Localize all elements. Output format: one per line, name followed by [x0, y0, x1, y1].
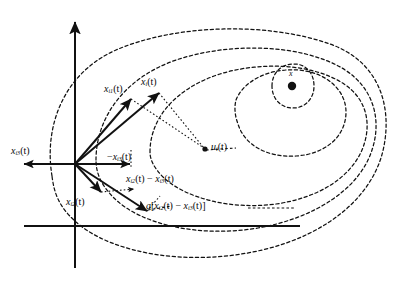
label-negative-x-i3: −xi3(t): [107, 152, 131, 162]
diagram-svg: [0, 0, 399, 284]
contour-center-dot: [288, 82, 296, 90]
point-u-i: [202, 146, 207, 151]
label-x-i2: xi2(t): [66, 197, 85, 207]
contour-level-3: [150, 66, 367, 205]
figure-canvas: xi1(t) xi(t) xi3(t) −xi3(t) xi2(t) − xi3…: [0, 0, 399, 284]
label-u-i: ui(t): [211, 142, 227, 152]
label-center-point: x: [289, 70, 293, 78]
vector-difference: [75, 164, 147, 211]
label-x-i3: xi3(t): [11, 146, 30, 156]
label-a-bracket: a[xi2(t) − xi3(t)]: [146, 201, 205, 211]
label-x-i1: xi1(t): [104, 84, 123, 94]
dotted-connector-x-i-to-u: [159, 93, 204, 148]
contour-level-2: [96, 48, 376, 231]
label-difference: xi2(t) − xi3(t): [126, 174, 174, 184]
label-x-i: xi(t): [141, 77, 157, 87]
